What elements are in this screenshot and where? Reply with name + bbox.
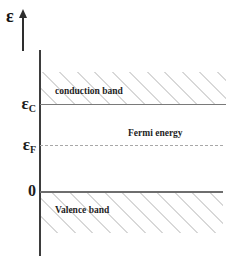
energy-axis-arrow-shaft <box>22 16 24 51</box>
axis-tick-label-epsilon-f: εF <box>0 136 36 153</box>
conduction-band-edge-line <box>40 104 226 105</box>
valence-band-edge-line <box>40 191 223 193</box>
axis-tick-label-epsilon-c: εC <box>0 95 36 112</box>
axis-tick-label-epsilon-c-symbol: ε <box>22 94 29 113</box>
fermi-energy-level-line <box>40 145 223 146</box>
energy-axis-symbol: ε <box>6 7 14 25</box>
axis-tick-label-zero: 0 <box>0 183 36 199</box>
valence-band-label: Valence band <box>55 206 109 216</box>
axis-tick-label-epsilon-f-symbol: ε <box>23 135 30 154</box>
axis-tick-label-epsilon-c-subscript: C <box>29 103 36 114</box>
band-diagram-figure: ε εC εF 0 conduction band Fermi energy V… <box>0 0 240 271</box>
axis-tick-label-epsilon-f-subscript: F <box>30 144 36 155</box>
fermi-energy-label: Fermi energy <box>128 129 183 139</box>
up-arrow-icon <box>19 9 27 18</box>
conduction-band-label: conduction band <box>55 87 123 97</box>
energy-axis-line <box>39 50 41 256</box>
